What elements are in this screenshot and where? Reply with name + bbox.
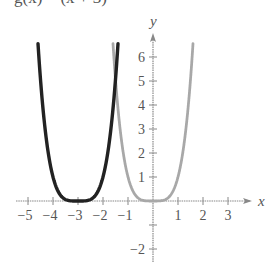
axis-labels: −5−4−3−2−1123−2123456xy (18, 13, 265, 257)
y-tick-label: 2 (138, 146, 145, 161)
x-tick-label: −2 (93, 208, 108, 223)
y-tick-label: 6 (138, 50, 145, 65)
x-tick-label: −5 (18, 208, 33, 223)
x-tick-label: 1 (175, 208, 182, 223)
y-tick-label: 3 (138, 122, 145, 137)
curves (38, 44, 193, 201)
x-tick-label: −4 (43, 208, 58, 223)
x-tick-label: −1 (118, 208, 133, 223)
y-tick-label: 4 (138, 98, 145, 113)
y-tick-label: 1 (138, 170, 145, 185)
x-tick-label: 3 (225, 208, 232, 223)
x-axis-label: x (257, 193, 265, 209)
function-graph: −5−4−3−2−1123−2123456xy (0, 0, 270, 262)
axes (16, 33, 252, 262)
x-tick-label: 2 (200, 208, 207, 223)
y-axis-label: y (148, 13, 157, 29)
curve-x-plus-3-to-the-fourth (38, 44, 118, 201)
x-tick-label: −3 (68, 208, 83, 223)
y-tick-label: −2 (130, 242, 145, 257)
y-tick-label: 5 (138, 74, 145, 89)
